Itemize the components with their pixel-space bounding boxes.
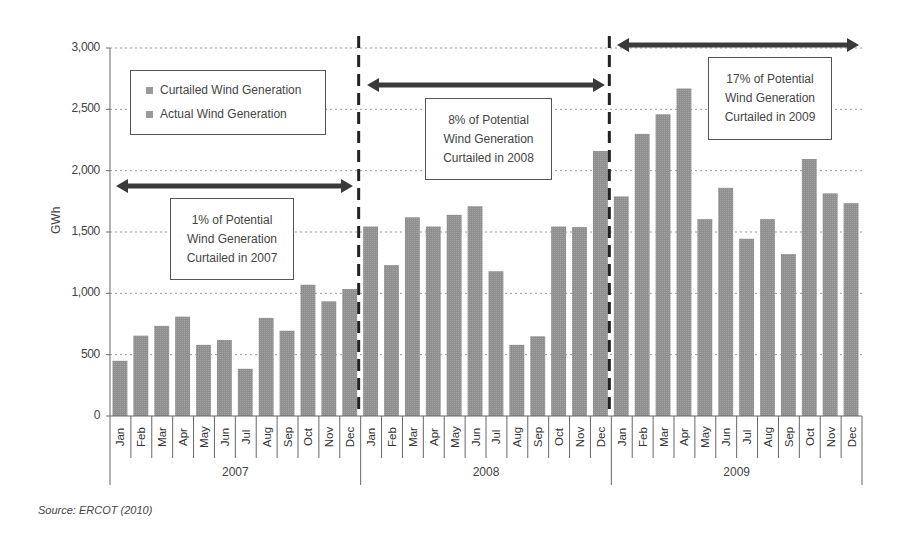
bar bbox=[697, 219, 712, 416]
y-tick-label: 2,500 bbox=[71, 101, 100, 115]
month-label: Jan bbox=[113, 419, 127, 455]
month-label: Jan bbox=[615, 419, 629, 455]
bar bbox=[133, 336, 148, 416]
annotation-line: 17% of Potential bbox=[709, 70, 831, 89]
y-tick-label: 3,000 bbox=[71, 40, 100, 54]
bar bbox=[426, 226, 441, 416]
month-label: Jun bbox=[469, 419, 483, 455]
legend-item-curtailed: Curtailed Wind Generation bbox=[146, 83, 301, 97]
bar bbox=[781, 254, 796, 416]
month-label: Oct bbox=[803, 419, 817, 455]
legend-label: Actual Wind Generation bbox=[160, 107, 287, 121]
month-label: Sep bbox=[782, 419, 796, 455]
bar bbox=[802, 159, 817, 416]
y-tick-label: 500 bbox=[81, 347, 100, 361]
annotation-2007: 1% of Potential Wind Generation Curtaile… bbox=[170, 198, 294, 280]
bar bbox=[489, 271, 504, 416]
bar bbox=[677, 88, 692, 416]
bar bbox=[823, 193, 838, 416]
bar bbox=[760, 219, 775, 416]
month-label: May bbox=[197, 419, 211, 455]
double-arrow-2008-icon bbox=[367, 78, 605, 92]
legend: Curtailed Wind Generation Actual Wind Ge… bbox=[130, 70, 326, 135]
annotation-line: Wind Generation bbox=[171, 230, 293, 249]
legend-item-actual: Actual Wind Generation bbox=[146, 107, 287, 121]
month-label: May bbox=[448, 419, 462, 455]
year-label: 2009 bbox=[707, 465, 767, 479]
bar bbox=[572, 227, 587, 416]
month-label: Jul bbox=[489, 419, 503, 455]
bar bbox=[196, 345, 211, 416]
bar bbox=[739, 239, 754, 416]
bar bbox=[154, 326, 169, 416]
month-label: Apr bbox=[176, 419, 190, 455]
month-label: Jul bbox=[239, 419, 253, 455]
month-label: Feb bbox=[134, 419, 148, 455]
month-label: Jul bbox=[740, 419, 754, 455]
bar bbox=[321, 301, 336, 416]
month-label: Sep bbox=[281, 419, 295, 455]
month-label: Sep bbox=[531, 419, 545, 455]
month-label: Jun bbox=[719, 419, 733, 455]
month-label: Mar bbox=[155, 419, 169, 455]
bar bbox=[113, 361, 128, 416]
month-label: Apr bbox=[677, 419, 691, 455]
bar bbox=[175, 317, 190, 416]
month-label: Jun bbox=[218, 419, 232, 455]
source-note: Source: ERCOT (2010) bbox=[38, 504, 152, 516]
month-label: Mar bbox=[657, 419, 671, 455]
year-label: 2007 bbox=[205, 465, 265, 479]
month-label: Dec bbox=[594, 419, 608, 455]
bar bbox=[551, 226, 566, 416]
bar bbox=[280, 331, 295, 416]
legend-label: Curtailed Wind Generation bbox=[160, 83, 301, 97]
month-label: Aug bbox=[510, 419, 524, 455]
annotation-line: 1% of Potential bbox=[171, 211, 293, 230]
legend-swatch-curtailed-icon bbox=[146, 87, 153, 94]
legend-swatch-actual-icon bbox=[146, 111, 153, 118]
bar bbox=[530, 336, 545, 416]
double-arrow-2007-icon bbox=[116, 179, 353, 193]
y-tick-label: 1,000 bbox=[71, 285, 100, 299]
month-label: Nov bbox=[824, 419, 838, 455]
month-label: Feb bbox=[385, 419, 399, 455]
bar bbox=[301, 285, 316, 416]
y-tick-label: 2,000 bbox=[71, 163, 100, 177]
annotation-line: 8% of Potential bbox=[426, 111, 551, 130]
month-label: Aug bbox=[260, 419, 274, 455]
annotation-line: Curtailed in 2007 bbox=[171, 249, 293, 268]
y-axis-label: GWh bbox=[49, 210, 63, 234]
annotation-line: Wind Generation bbox=[426, 130, 551, 149]
bar bbox=[384, 265, 399, 416]
month-label: Dec bbox=[343, 419, 357, 455]
bar bbox=[217, 340, 232, 416]
bar bbox=[405, 217, 420, 416]
bar bbox=[363, 226, 378, 416]
month-label: May bbox=[698, 419, 712, 455]
y-tick-label: 0 bbox=[94, 408, 100, 422]
month-label: Aug bbox=[761, 419, 775, 455]
bar bbox=[718, 188, 733, 416]
annotation-line: Curtailed in 2008 bbox=[426, 149, 551, 168]
bar bbox=[593, 151, 608, 416]
month-label: Oct bbox=[552, 419, 566, 455]
annotation-line: Curtailed in 2009 bbox=[709, 108, 831, 127]
year-label: 2008 bbox=[456, 465, 516, 479]
month-label: Jan bbox=[364, 419, 378, 455]
annotation-2008: 8% of Potential Wind Generation Curtaile… bbox=[425, 98, 552, 180]
bar bbox=[509, 345, 524, 416]
bar bbox=[468, 206, 483, 416]
month-label: Oct bbox=[301, 419, 315, 455]
wind-curtailment-chart: GWh 05001,0001,5002,0002,5003,000 Curtai… bbox=[0, 0, 908, 537]
double-arrow-2009-icon bbox=[617, 38, 859, 52]
month-label: Nov bbox=[573, 419, 587, 455]
annotation-2009: 17% of Potential Wind Generation Curtail… bbox=[708, 57, 832, 140]
bar bbox=[238, 369, 253, 416]
bar bbox=[844, 203, 859, 416]
month-label: Nov bbox=[322, 419, 336, 455]
month-label: Feb bbox=[636, 419, 650, 455]
y-tick-label: 1,500 bbox=[71, 224, 100, 238]
month-label: Apr bbox=[427, 419, 441, 455]
bar bbox=[259, 318, 274, 416]
bar bbox=[635, 134, 650, 416]
